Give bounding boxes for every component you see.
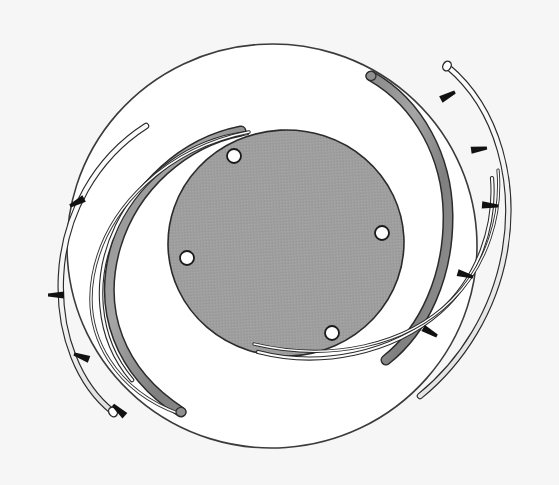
figure-canvas [0,0,559,485]
band-cap-top [366,72,376,81]
hole-left [180,251,194,265]
hole-right [375,226,389,240]
diagram-root [0,0,559,485]
hole-bottom [325,326,339,340]
hole-top [227,149,241,163]
band-cap-bottom [176,408,186,417]
